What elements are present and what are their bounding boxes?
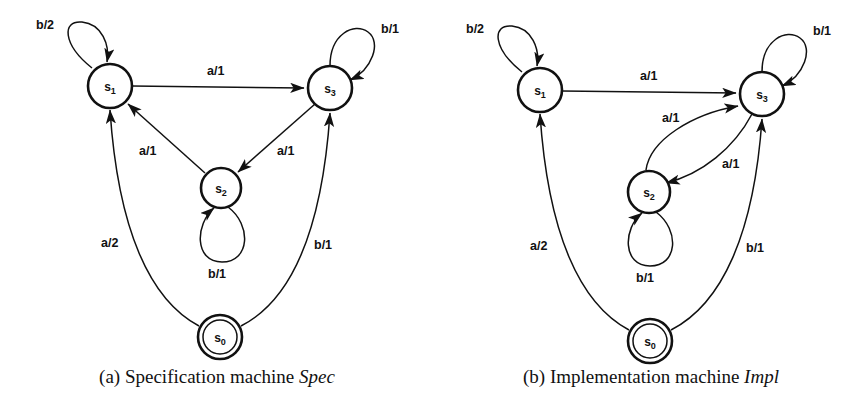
- caption-prefix-b: (b) Implementation machine: [523, 366, 744, 387]
- edge-label-s3-to-s2: a/1: [277, 144, 294, 158]
- caption-panel-a: (a) Specification machine Spec: [0, 366, 434, 388]
- edge-label-s0-to-s3: b/1: [314, 238, 332, 252]
- caption-emphasis-a: Spec: [299, 366, 335, 387]
- edge-label-s2-to-s3: a/1: [662, 111, 679, 125]
- edge-s0-to-s1: [110, 110, 199, 326]
- panel-specification-machine: b/2 b/1 a/1 a/1 a/1 b/1 a/2 b/1: [0, 0, 434, 413]
- edge-label-s3-self-loop: b/1: [381, 22, 399, 36]
- edge-label-s1-to-s3: a/1: [640, 69, 657, 83]
- edge-s1-self-loop: [498, 26, 538, 72]
- edge-label-s0-to-s3: b/1: [746, 241, 764, 255]
- caption-emphasis-b: Impl: [744, 366, 779, 387]
- edge-label-s0-to-s1: a/2: [530, 239, 547, 253]
- edge-s1-to-s3: [562, 91, 736, 93]
- edge-label-s3-to-s2: a/1: [722, 157, 739, 171]
- edge-s1-to-s3: [132, 86, 304, 88]
- edge-s2-self-loop: [628, 212, 672, 266]
- caption-panel-b: (b) Implementation machine Impl: [434, 366, 868, 388]
- edge-s0-to-s3: [671, 119, 762, 330]
- edge-s3-to-s2: [238, 104, 315, 172]
- edge-s2-to-s1: [128, 104, 205, 173]
- state-diagram-a: b/2 b/1 a/1 a/1 a/1 b/1 a/2 b/1: [0, 0, 434, 413]
- edge-label-s2-self-loop: b/1: [636, 271, 654, 285]
- edge-label-s2-self-loop: b/1: [208, 267, 226, 281]
- edge-label-s3-self-loop: b/1: [813, 24, 831, 38]
- edge-label-s1-to-s3: a/1: [207, 64, 224, 78]
- panel-implementation-machine: b/2 b/1 a/1 a/1 a/1 b/1 a/2 b/1: [434, 0, 868, 413]
- edge-s1-self-loop: [68, 22, 108, 68]
- caption-prefix-a: (a) Specification machine: [99, 366, 299, 387]
- edge-label-s1-self-loop: b/2: [466, 22, 484, 36]
- state-diagram-b: b/2 b/1 a/1 a/1 a/1 b/1 a/2 b/1: [434, 0, 868, 413]
- edge-label-s2-to-s1: a/1: [139, 144, 156, 158]
- edge-label-s1-self-loop: b/2: [36, 18, 54, 32]
- edge-label-s0-to-s1: a/2: [101, 236, 118, 250]
- edge-s0-to-s1: [540, 114, 629, 330]
- edge-s2-self-loop: [200, 207, 244, 262]
- figure-root: b/2 b/1 a/1 a/1 a/1 b/1 a/2 b/1: [0, 0, 868, 413]
